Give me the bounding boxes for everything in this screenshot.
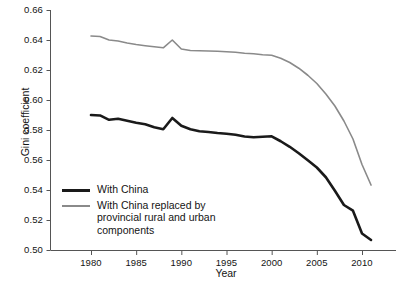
x-axis-ticks bbox=[92, 251, 363, 255]
gini-coefficient-line-chart: 0.500.520.540.560.580.600.620.640.66 198… bbox=[0, 0, 410, 288]
y-tick-label: 0.66 bbox=[9, 4, 43, 15]
y-axis-title: Gini coefficient bbox=[19, 47, 31, 197]
y-tick-label: 0.52 bbox=[9, 214, 43, 225]
series-line bbox=[91, 36, 371, 185]
y-tick-label: 0.50 bbox=[9, 244, 43, 255]
chart-legend: With China With China replaced by provin… bbox=[62, 183, 215, 239]
legend-line-icon-black bbox=[62, 184, 90, 196]
legend-label: With China replaced by provincial rural … bbox=[97, 199, 215, 237]
legend-item-with-china: With China bbox=[62, 183, 215, 196]
legend-item-china-replaced: With China replaced by provincial rural … bbox=[62, 199, 215, 237]
legend-label: With China bbox=[97, 183, 148, 196]
legend-line-icon-gray bbox=[62, 200, 90, 212]
y-tick-label: 0.64 bbox=[9, 34, 43, 45]
y-axis-ticks bbox=[47, 11, 51, 251]
x-axis-title: Year bbox=[0, 267, 410, 279]
plot-area bbox=[0, 0, 410, 288]
